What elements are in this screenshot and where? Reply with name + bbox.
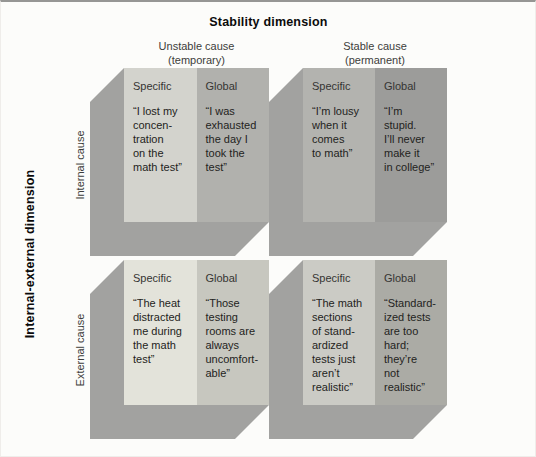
panel-label: Global xyxy=(384,272,439,284)
quadrant-internal-stable: Specific “I’m lousy when it comes to mat… xyxy=(269,68,447,256)
panel-label: Global xyxy=(206,80,262,92)
panel-global: Global “Those testing rooms are always u… xyxy=(197,260,270,405)
row-label-internal-cause: Internal cause xyxy=(74,105,88,225)
column-header-sub: (permanent) xyxy=(303,53,447,67)
internal-external-dimension-title: Internal-external dimension xyxy=(23,157,39,351)
attribution-quote: “I’m stupid. I’ll never make it in colle… xyxy=(384,105,439,175)
quadrant-external-unstable: Specific “The heat distracted me during … xyxy=(90,260,269,439)
panel-specific: Specific “The math sections of stand- ar… xyxy=(303,260,375,405)
quadrant-external-stable: Specific “The math sections of stand- ar… xyxy=(269,260,447,439)
panel-specific: Specific “I lost my concen- tration on t… xyxy=(124,68,197,222)
panel-specific: Specific “I’m lousy when it comes to mat… xyxy=(303,68,375,222)
column-header-name: Stable cause xyxy=(303,39,447,53)
column-header-sub: (temporary) xyxy=(124,53,269,67)
attribution-model-figure: Stability dimension Unstable cause (temp… xyxy=(0,0,536,457)
attribution-quote: “I lost my concen- tration on the math t… xyxy=(133,105,189,175)
panel-specific: Specific “The heat distracted me during … xyxy=(124,260,197,405)
panel-global: Global “Standard- ized tests are too har… xyxy=(375,260,447,405)
column-header-name: Unstable cause xyxy=(124,39,269,53)
panel-label: Specific xyxy=(133,80,189,92)
panel-label: Specific xyxy=(312,272,367,284)
attribution-quote: “The math sections of stand- ardized tes… xyxy=(312,297,367,395)
column-header-unstable-cause: Unstable cause (temporary) xyxy=(124,39,269,68)
attribution-quote: “Those testing rooms are always uncomfor… xyxy=(206,297,262,381)
panel-global: Global “I was exhausted the day I took t… xyxy=(197,68,270,222)
panel-label: Specific xyxy=(312,80,367,92)
attribution-quote: “I’m lousy when it comes to math” xyxy=(312,105,367,161)
attribution-quote: “The heat distracted me during the math … xyxy=(133,297,189,367)
panel-label: Global xyxy=(384,80,439,92)
attribution-quote: “I was exhausted the day I took the test… xyxy=(206,105,262,175)
column-header-stable-cause: Stable cause (permanent) xyxy=(303,39,447,68)
panel-label: Specific xyxy=(133,272,189,284)
quadrant-internal-unstable: Specific “I lost my concen- tration on t… xyxy=(90,68,269,256)
panel-label: Global xyxy=(206,272,262,284)
stability-dimension-title: Stability dimension xyxy=(90,15,447,29)
panel-global: Global “I’m stupid. I’ll never make it i… xyxy=(375,68,447,222)
attribution-quote: “Standard- ized tests are too hard; they… xyxy=(384,297,439,395)
row-label-external-cause: External cause xyxy=(74,290,88,410)
